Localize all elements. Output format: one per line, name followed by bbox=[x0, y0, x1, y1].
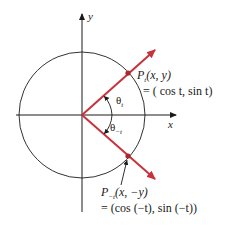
y-axis-label: y bbox=[87, 10, 93, 22]
p-neg-t-equation: = (cos (−t), sin (−t)) bbox=[101, 201, 197, 215]
x-axis-label: x bbox=[167, 118, 173, 130]
unit-circle-diagram: x y θt θ−t Pt(x, y) = ( cos t, sin t) P−… bbox=[0, 0, 234, 226]
angle-arc-theta-t bbox=[104, 96, 112, 115]
theta-t-label: θt bbox=[116, 94, 124, 109]
point-p-neg-t bbox=[125, 153, 130, 158]
p-neg-t-label: P−t(x, −y) bbox=[100, 185, 148, 201]
theta-neg-t-label: θ−t bbox=[110, 121, 123, 136]
point-p-t bbox=[125, 70, 130, 75]
p-t-label: Pt(x, y) bbox=[136, 68, 171, 84]
p-t-equation: = ( cos t, sin t) bbox=[143, 84, 212, 98]
